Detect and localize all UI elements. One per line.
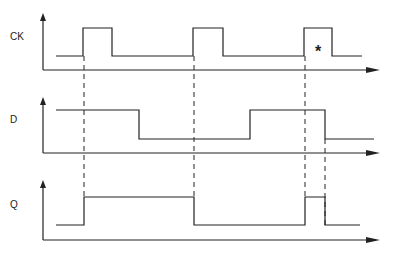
q-waveform <box>56 197 360 225</box>
ck-signal-label: CK <box>10 31 24 42</box>
q-time-axis-arrow-icon <box>366 237 380 243</box>
d-waveform <box>56 110 374 139</box>
ck-time-axis-arrow-icon <box>366 67 380 73</box>
d-y-axis-arrow-icon <box>40 97 46 105</box>
timing-diagram: * <box>0 0 393 256</box>
d-signal-label: D <box>10 114 17 125</box>
d-time-axis-arrow-icon <box>366 150 380 156</box>
asterisk-annotation: * <box>315 43 322 60</box>
q-y-axis-arrow-icon <box>40 180 46 188</box>
ck-y-axis-arrow-icon <box>40 13 46 21</box>
q-signal-label: Q <box>10 199 18 210</box>
